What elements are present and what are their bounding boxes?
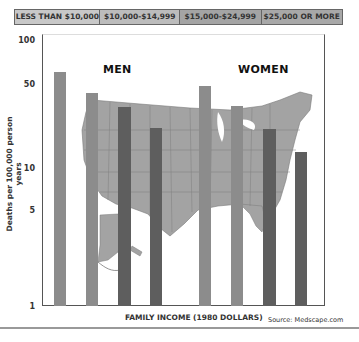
bar-men-15000-24999: [118, 107, 131, 306]
bar-men-lt-10000: [54, 72, 66, 306]
bar-women-15000-24999: [263, 129, 276, 306]
ytick-50: 50: [24, 80, 35, 89]
bar-women-25000-plus: [295, 152, 307, 306]
ytick-100: 100: [18, 36, 35, 45]
x-axis-label: FAMILY INCOME (1980 DOLLARS): [125, 313, 263, 322]
bar-women-10000-14999: [231, 106, 243, 306]
bar-women-lt-10000: [199, 86, 211, 306]
source-credit: Source: Medscape.com: [268, 316, 343, 324]
bottom-divider: [0, 327, 359, 329]
bar-men-10000-14999: [86, 93, 98, 306]
ytick-5: 5: [29, 206, 35, 215]
ytick-1: 1: [29, 302, 35, 311]
men-label: MEN: [103, 63, 132, 76]
ytick-10: 10: [24, 164, 35, 173]
y-axis-label: Deaths per 100,000 person years: [5, 114, 23, 234]
bar-men-25000-plus: [150, 128, 162, 306]
women-label: WOMEN: [238, 63, 289, 76]
